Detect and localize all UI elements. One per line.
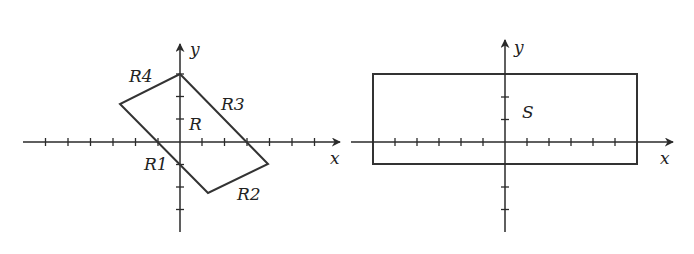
left-figure: y x R R1 R2 R3 R4 xyxy=(23,39,340,232)
edge-label-r4: R4 xyxy=(128,66,153,86)
edge-label-r1: R1 xyxy=(143,154,168,174)
x-axis-label-right: x xyxy=(660,148,670,168)
x-axis-label-left: x xyxy=(330,148,340,168)
diagram-canvas: y x R R1 R2 R3 R4 xyxy=(0,0,694,254)
edge-label-r2: R2 xyxy=(236,184,261,204)
region-label-s: S xyxy=(522,102,534,122)
right-figure: y x S xyxy=(351,37,673,232)
edge-label-r3: R3 xyxy=(220,94,245,114)
region-label-r: R xyxy=(188,114,202,134)
y-axis-label-right: y xyxy=(513,37,524,57)
y-axis-label-left: y xyxy=(189,39,200,59)
